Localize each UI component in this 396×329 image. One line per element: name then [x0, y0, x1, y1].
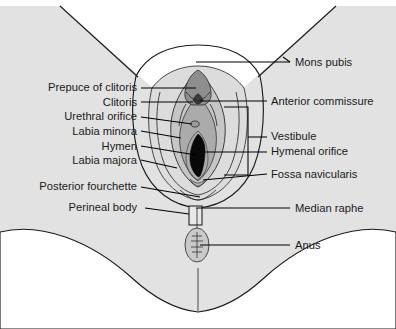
- label-labia-minora: Labia minora: [72, 125, 137, 137]
- diagram-canvas: Prepuce of clitoris Clitoris Urethral or…: [0, 0, 396, 329]
- perineal-body-marker: [189, 206, 202, 225]
- label-median-raphe: Median raphe: [295, 202, 363, 214]
- label-labia-majora: Labia majora: [72, 154, 137, 166]
- label-fossa-navicularis: Fossa navicularis: [271, 168, 358, 180]
- label-clitoris: Clitoris: [103, 96, 138, 108]
- label-anterior-commissure: Anterior commissure: [271, 95, 374, 107]
- label-hymen: Hymen: [102, 140, 137, 152]
- label-mons-pubis: Mons pubis: [295, 56, 353, 68]
- label-anus: Anus: [295, 239, 321, 251]
- label-hymenal-orifice: Hymenal orifice: [271, 145, 348, 157]
- urethral-orifice: [191, 121, 199, 127]
- label-prepuce-of-clitoris: Prepuce of clitoris: [48, 81, 137, 93]
- label-posterior-fourchette: Posterior fourchette: [39, 180, 137, 192]
- label-urethral-orifice: Urethral orifice: [64, 110, 137, 122]
- label-perineal-body: Perineal body: [69, 201, 138, 213]
- label-vestibule: Vestibule: [271, 130, 316, 142]
- anatomical-diagram: Prepuce of clitoris Clitoris Urethral or…: [0, 0, 396, 329]
